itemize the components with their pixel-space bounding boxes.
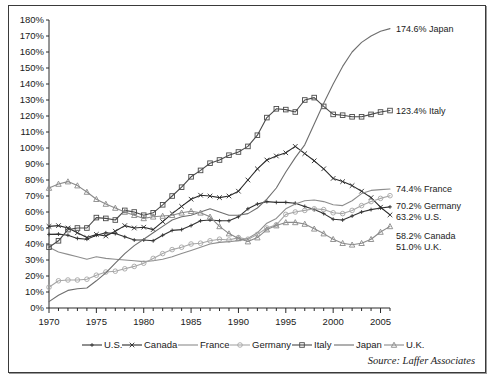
chart-frame: 0%10%20%30%40%50%60%70%80%90%100%110%120… xyxy=(8,5,486,373)
end-label-uk: 51.0% U.K. xyxy=(396,242,442,252)
series-france xyxy=(49,189,390,262)
legend-label: France xyxy=(200,339,230,350)
y-tick-label: 50% xyxy=(25,222,45,233)
x-tick-label: 1980 xyxy=(133,316,154,327)
data-point-marker xyxy=(321,167,326,172)
data-point-marker xyxy=(274,201,278,205)
data-point-marker xyxy=(236,189,241,194)
data-point-marker xyxy=(350,183,355,188)
end-label-japan: 174.6% Japan xyxy=(396,24,454,34)
debt-to-gdp-line-chart: 0%10%20%30%40%50%60%70%80%90%100%110%120… xyxy=(9,6,485,372)
y-tick-label: 120% xyxy=(20,110,45,121)
series-line xyxy=(49,189,390,262)
data-point-marker xyxy=(265,158,270,163)
data-point-marker xyxy=(255,202,259,206)
end-label-france: 74.4% France xyxy=(396,184,452,194)
end-label-canada: 58.2% Canada xyxy=(396,231,456,241)
x-tick-label: 1975 xyxy=(86,316,107,327)
legend-label: Canada xyxy=(144,339,178,350)
data-point-marker xyxy=(227,219,231,223)
data-point-marker xyxy=(312,159,317,164)
data-point-marker xyxy=(160,219,165,224)
data-point-marker xyxy=(123,235,127,239)
x-axis-ticks: 19701975198019851990199520002005 xyxy=(38,308,391,327)
data-point-marker xyxy=(180,228,184,232)
y-tick-label: 60% xyxy=(25,206,45,217)
y-tick-label: 20% xyxy=(25,270,45,281)
data-point-marker xyxy=(66,233,70,237)
data-point-marker xyxy=(341,218,345,222)
y-axis-ticks: 0%10%20%30%40%50%60%70%80%90%100%110%120… xyxy=(20,14,49,313)
data-point-marker xyxy=(302,151,307,156)
x-tick-label: 1970 xyxy=(38,316,59,327)
y-tick-label: 170% xyxy=(20,30,45,41)
y-tick-label: 30% xyxy=(25,254,45,265)
axes xyxy=(49,20,390,308)
data-point-marker xyxy=(170,229,174,233)
source-note: Source: Laffer Associates xyxy=(368,355,475,366)
data-point-marker xyxy=(388,205,392,209)
x-tick-label: 1995 xyxy=(275,316,296,327)
legend-label: U.S. xyxy=(104,339,122,350)
y-tick-label: 70% xyxy=(25,190,45,201)
data-point-marker xyxy=(199,219,203,223)
x-tick-label: 2005 xyxy=(370,316,391,327)
data-point-marker xyxy=(132,238,136,242)
legend-item-germany[interactable]: Germany xyxy=(230,339,291,350)
x-tick-label: 1990 xyxy=(228,316,249,327)
legend-label: Germany xyxy=(252,339,291,350)
data-point-marker xyxy=(218,219,222,223)
y-tick-label: 110% xyxy=(20,126,44,137)
y-tick-label: 160% xyxy=(20,46,45,57)
y-tick-label: 130% xyxy=(20,94,45,105)
end-label-germany: 70.2% Germany xyxy=(396,201,462,211)
data-point-marker xyxy=(90,343,94,347)
legend-label: Japan xyxy=(356,339,382,350)
y-tick-label: 10% xyxy=(25,286,45,297)
y-tick-label: 150% xyxy=(20,62,45,73)
data-point-marker xyxy=(255,167,260,172)
y-tick-label: 40% xyxy=(25,238,45,249)
data-point-marker xyxy=(75,231,80,236)
data-point-marker xyxy=(57,232,61,236)
data-point-marker xyxy=(246,178,251,183)
data-point-marker xyxy=(360,210,364,214)
end-label-italy: 123.4% Italy xyxy=(396,106,446,116)
series-canada xyxy=(47,144,393,240)
data-point-marker xyxy=(293,144,298,149)
x-tick-label: 1985 xyxy=(181,316,202,327)
series-japan xyxy=(49,29,390,302)
y-tick-label: 140% xyxy=(20,78,45,89)
legend-item-japan[interactable]: Japan xyxy=(334,339,382,350)
data-point-marker xyxy=(284,201,288,205)
data-point-marker xyxy=(179,204,184,209)
data-point-marker xyxy=(350,214,354,218)
legend-item-italy[interactable]: Italy xyxy=(292,339,332,350)
y-tick-label: 90% xyxy=(25,158,45,169)
y-tick-label: 0% xyxy=(30,302,44,313)
y-tick-label: 100% xyxy=(20,142,45,153)
legend-item-canada[interactable]: Canada xyxy=(122,339,178,350)
legend: U.S.CanadaFranceGermanyItalyJapanU.K. xyxy=(82,339,424,350)
series-germany xyxy=(47,193,393,289)
x-tick-label: 2000 xyxy=(323,316,344,327)
end-labels: 174.6% Japan123.4% Italy74.4% France70.2… xyxy=(396,24,462,253)
data-point-marker xyxy=(369,208,373,212)
data-point-marker xyxy=(47,233,51,237)
legend-item-uk[interactable]: U.K. xyxy=(384,339,424,350)
legend-label: Italy xyxy=(314,339,332,350)
y-tick-label: 80% xyxy=(25,174,45,185)
legend-label: U.K. xyxy=(406,339,424,350)
y-tick-label: 180% xyxy=(20,14,45,25)
data-point-marker xyxy=(388,213,393,218)
series-line xyxy=(49,29,390,302)
data-point-marker xyxy=(189,224,193,228)
legend-item-france[interactable]: France xyxy=(178,339,230,350)
data-point-marker xyxy=(76,237,80,241)
data-point-marker xyxy=(189,197,194,202)
series-line xyxy=(49,98,390,248)
end-label-us: 63.2% U.S. xyxy=(396,212,442,222)
legend-item-us[interactable]: U.S. xyxy=(82,339,122,350)
